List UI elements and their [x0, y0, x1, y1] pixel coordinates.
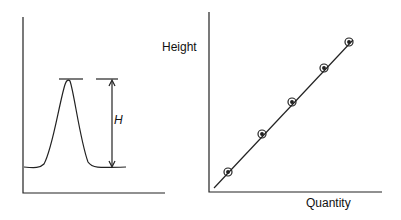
diagram	[0, 0, 401, 220]
x-axis-label: Quantity	[306, 196, 351, 210]
calib-line	[214, 40, 353, 188]
y-axis-label: Height	[162, 40, 197, 54]
peak-panel	[23, 17, 165, 193]
calibration-panel	[209, 12, 382, 192]
peak-curve	[24, 80, 126, 167]
h-label: H	[114, 113, 123, 127]
data-points	[224, 38, 353, 176]
